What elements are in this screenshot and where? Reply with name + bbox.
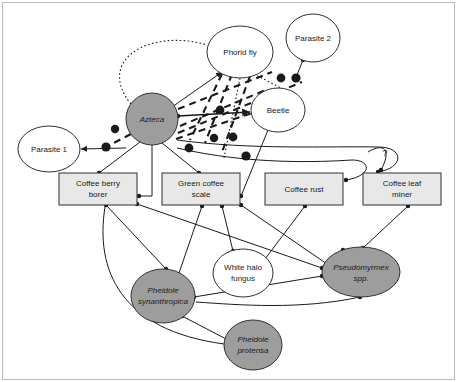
edge-azteca-berryborer-right [139, 145, 152, 196]
endpoint-dot [344, 178, 348, 182]
node-phorid-fly[interactable]: Phorid fly [207, 26, 273, 78]
endpoint-bigdot [210, 134, 218, 142]
node-label-pheidole-pro-2: protensa [236, 346, 269, 355]
endpoint-bigdot [291, 73, 300, 82]
node-label-coffee-rust: Coffee rust [285, 185, 325, 194]
edge-beetle-greenscale [241, 130, 268, 196]
interaction-network: Phorid fly Parasite 2 Azteca Beetle Para… [0, 0, 457, 382]
node-label-green-coffee-scale-1: Green coffee [178, 179, 225, 188]
node-label-pheidole-syn-1: Pheidole [147, 286, 179, 295]
node-layer: Phorid fly Parasite 2 Azteca Beetle Para… [18, 14, 441, 370]
edge-pseudomyrmex-lower-curve [196, 297, 360, 306]
node-parasite-2[interactable]: Parasite 2 [286, 14, 340, 62]
question-mark-annotation: ? [382, 148, 387, 158]
node-label-coffee-leaf-miner-1: Coffee leaf [383, 179, 422, 188]
edge-azteca-greenscale [162, 143, 199, 173]
node-coffee-berry-borer[interactable]: Coffee berry borer [59, 173, 137, 205]
edge-azteca-phoridfly-dotted [120, 40, 207, 104]
node-label-beetle: Beetle [267, 106, 290, 115]
node-pheidole-synanthropica[interactable]: Pheidole synanthropica [131, 269, 195, 323]
node-label-coffee-berry-borer-2: borer [89, 190, 108, 199]
node-azteca[interactable]: Azteca [126, 93, 178, 145]
node-white-halo-fungus[interactable]: White halo fungus [213, 249, 273, 297]
node-pseudomyrmex[interactable]: Pseudomyrmex spp. [322, 247, 400, 297]
node-label-coffee-berry-borer-1: Coffee berry [76, 179, 120, 188]
node-coffee-leaf-miner[interactable]: Coffee leaf miner [363, 173, 441, 205]
node-beetle[interactable]: Beetle [251, 88, 305, 132]
node-label-white-halo-fungus-2: fungus [231, 274, 255, 283]
endpoint-bigdot [229, 133, 238, 142]
node-label-phorid-fly: Phorid fly [223, 48, 256, 57]
node-label-pheidole-pro-1: Pheidole [237, 335, 269, 344]
edge-greenscale-pheidolesyn [178, 206, 202, 276]
edge-berryborer-pheidolesyn [106, 205, 166, 269]
endpoint-bigdot [241, 151, 250, 160]
node-label-pheidole-syn-2: synanthropica [138, 297, 188, 306]
node-label-azteca: Azteca [139, 115, 165, 124]
diagram-canvas: Phorid fly Parasite 2 Azteca Beetle Para… [0, 0, 457, 382]
edge-azteca-leafminer-curve [177, 140, 398, 172]
endpoint-bigdot [111, 125, 119, 133]
node-pheidole-protensa[interactable]: Pheidole protensa [224, 320, 282, 370]
node-coffee-rust[interactable]: Coffee rust [265, 173, 343, 205]
node-green-coffee-scale[interactable]: Green coffee scale [162, 173, 240, 205]
endpoint-bigdot [101, 142, 110, 151]
node-label-white-halo-fungus-1: White halo [224, 263, 262, 272]
node-parasite-1[interactable]: Parasite 1 [18, 126, 80, 172]
endpoint-bigdot [185, 144, 194, 153]
node-label-pseudomyrmex-2: spp. [353, 274, 368, 283]
edge-greenscale-whitehalo [222, 206, 233, 251]
node-label-parasite-2: Parasite 2 [295, 34, 332, 43]
endpoint-bigdot [277, 74, 286, 83]
node-label-pseudomyrmex-1: Pseudomyrmex [333, 263, 390, 272]
endpoint-bigdot [216, 106, 225, 115]
node-label-coffee-leaf-miner-2: miner [392, 190, 412, 199]
node-label-green-coffee-scale-2: scale [192, 190, 211, 199]
edge-leafminer-pseudomyrmex [363, 206, 408, 248]
node-label-parasite-1: Parasite 1 [31, 145, 68, 154]
